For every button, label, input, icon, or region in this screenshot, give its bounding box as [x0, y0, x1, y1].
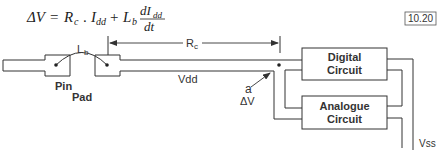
equation-plus: + [110, 9, 118, 25]
digital-label-line2: Circuit [327, 64, 362, 76]
equation-lb-symbol: L [122, 9, 131, 25]
equation-rc-symbol: R [63, 9, 73, 25]
vss-rail-outer [387, 59, 413, 150]
equation-frac-den: dt [144, 19, 155, 34]
equation-rc-sub: c [74, 16, 79, 27]
figure-ref-label: 10.20 [408, 13, 433, 24]
analogue-label-line1: Analogue [319, 100, 369, 112]
node-a-label: a [245, 82, 252, 96]
analogue-circuit-block: Analogue Circuit [302, 96, 387, 129]
equation-frac-num: dI [140, 3, 152, 18]
equation: ΔV = R c . I dd + L b dI dd dt [26, 3, 165, 34]
node-a-arrow [251, 73, 270, 87]
digital-label-line1: Digital [328, 51, 362, 63]
lb-sub: b [84, 48, 89, 57]
left-lead [3, 60, 45, 71]
vss-rail-digital-to-analogue [387, 70, 402, 106]
rc-label: R [186, 37, 194, 49]
equation-lhs: ΔV [26, 9, 47, 25]
equation-frac-num-sub: dd [153, 10, 163, 20]
pad-bond-dot [105, 63, 109, 67]
digital-circuit-block: Digital Circuit [302, 48, 387, 80]
lb-label: L [77, 43, 83, 55]
node-a-dot [277, 63, 281, 67]
vss-rail-analogue [387, 118, 402, 148]
analogue-label-line2: Circuit [327, 113, 362, 125]
vss-label: Vss [419, 138, 436, 149]
equation-idd-sub: dd [96, 16, 107, 27]
vdd-inner-rail [285, 70, 302, 108]
vdd-rail-bottom [120, 71, 302, 119]
figure-ref-badge: 10.20 [405, 12, 436, 25]
pin-label: Pin [55, 80, 72, 92]
delta-v-label: ΔV [240, 95, 255, 107]
equation-lb-sub: b [132, 16, 137, 27]
pad-label: Pad [72, 91, 92, 103]
pin-bond-dot [54, 63, 58, 67]
rc-sub: c [194, 42, 198, 51]
vdd-label: Vdd [178, 73, 198, 85]
equation-dot: . [83, 9, 87, 25]
power-supply-diagram: ΔV = R c . I dd + L b dI dd dt 10.20 L b… [0, 0, 441, 152]
equation-equals: = [50, 9, 58, 25]
